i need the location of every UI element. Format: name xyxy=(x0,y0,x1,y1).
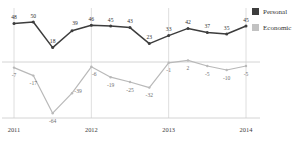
data-point-economic-8 xyxy=(167,62,169,64)
x-tick-2014: 2014 xyxy=(240,126,253,134)
data-point-economic-11 xyxy=(225,69,227,71)
data-label-economic-1: -17 xyxy=(30,80,37,86)
x-tick-2011: 2011 xyxy=(8,126,21,134)
data-point-personal-4 xyxy=(90,24,93,27)
data-label-personal-1: 50 xyxy=(31,13,37,19)
data-label-personal-3: 39 xyxy=(72,20,78,26)
data-label-personal-5: 45 xyxy=(108,17,114,23)
data-label-economic-8: -1 xyxy=(166,67,171,73)
series-lines xyxy=(14,22,246,113)
data-label-personal-7: 23 xyxy=(147,34,153,40)
data-point-economic-6 xyxy=(129,81,131,83)
data-label-economic-7: -32 xyxy=(146,92,153,98)
data-label-personal-10: 37 xyxy=(205,23,211,29)
data-point-personal-2 xyxy=(51,46,54,49)
x-tick-2013: 2013 xyxy=(162,126,175,134)
data-label-economic-4: -6 xyxy=(92,71,97,77)
data-label-personal-12: 45 xyxy=(243,17,249,23)
data-point-personal-1 xyxy=(32,21,35,24)
data-point-economic-4 xyxy=(90,66,92,68)
data-point-economic-12 xyxy=(245,65,247,67)
data-label-personal-8: 33 xyxy=(166,26,172,32)
chart-container: 48501839464543233342373545-7-17-64-39-6-… xyxy=(0,0,308,142)
data-point-personal-11 xyxy=(225,33,228,36)
data-label-economic-11: -10 xyxy=(223,75,230,81)
data-label-personal-11: 35 xyxy=(224,25,230,31)
data-point-personal-9 xyxy=(187,27,190,30)
data-point-economic-9 xyxy=(187,59,189,61)
data-label-economic-12: -5 xyxy=(244,71,249,77)
data-point-personal-0 xyxy=(13,22,16,25)
data-label-personal-0: 48 xyxy=(11,14,17,20)
data-label-economic-3: -39 xyxy=(74,88,81,94)
data-label-economic-9: 2 xyxy=(187,65,190,71)
legend-label-personal: Personal xyxy=(263,8,287,16)
data-label-personal-6: 43 xyxy=(127,18,133,24)
data-point-personal-3 xyxy=(71,29,74,32)
legend-item-economic[interactable]: Economic xyxy=(252,21,308,34)
data-point-economic-1 xyxy=(32,74,34,76)
legend-swatch-economic xyxy=(252,24,259,31)
data-label-personal-9: 42 xyxy=(185,19,191,25)
data-label-economic-2: -64 xyxy=(49,118,56,124)
legend-label-economic: Economic xyxy=(263,24,291,32)
data-label-economic-0: -7 xyxy=(12,72,17,78)
data-label-economic-5: -19 xyxy=(107,82,114,88)
data-point-personal-8 xyxy=(167,34,170,37)
data-label-personal-2: 18 xyxy=(50,38,56,44)
data-point-economic-3 xyxy=(71,92,73,94)
legend-swatch-personal xyxy=(252,8,259,15)
series-line-personal xyxy=(14,22,246,48)
data-point-personal-10 xyxy=(206,31,209,34)
x-tick-2012: 2012 xyxy=(85,126,98,134)
gridlines xyxy=(14,8,246,118)
data-label-economic-10: -5 xyxy=(205,71,210,77)
data-point-economic-2 xyxy=(51,112,53,114)
legend-item-personal[interactable]: Personal xyxy=(252,5,308,18)
data-point-personal-6 xyxy=(129,26,132,29)
data-point-economic-10 xyxy=(206,65,208,67)
data-point-personal-12 xyxy=(245,25,248,28)
data-point-economic-5 xyxy=(109,76,111,78)
data-point-economic-0 xyxy=(13,66,15,68)
data-point-personal-7 xyxy=(148,42,151,45)
chart-legend: Personal Economic xyxy=(252,5,308,37)
data-label-personal-4: 46 xyxy=(89,16,95,22)
data-point-economic-7 xyxy=(148,86,150,88)
data-label-economic-6: -25 xyxy=(126,87,133,93)
data-point-personal-5 xyxy=(109,25,112,28)
